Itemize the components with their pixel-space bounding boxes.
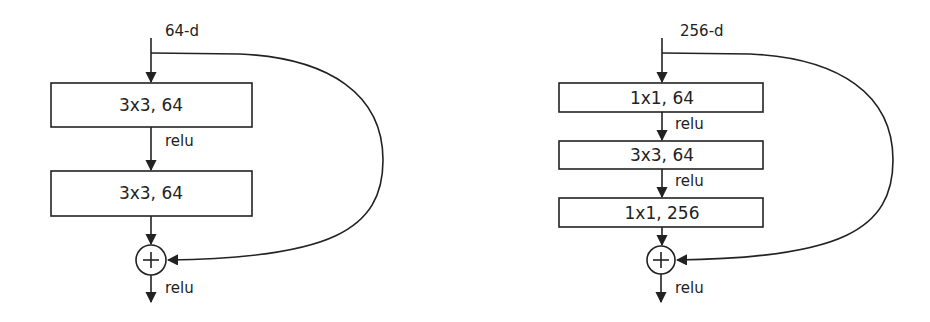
- left-layer-1-label: 3x3, 64: [119, 95, 183, 115]
- right-input-dim-label: 256-d: [680, 22, 724, 40]
- left-layer-2: 3x3, 64: [51, 171, 252, 216]
- left-output-relu-label: relu: [165, 279, 194, 297]
- right-relu-2-label: relu: [675, 172, 704, 190]
- right-layer-2: 3x3, 64: [559, 141, 763, 169]
- left-layer-2-label: 3x3, 64: [119, 183, 183, 203]
- left-add-node: [136, 245, 166, 275]
- right-layer-3: 1x1, 256: [559, 198, 763, 227]
- left-layer-1: 3x3, 64: [51, 83, 252, 127]
- right-relu-1-label: relu: [675, 115, 704, 133]
- right-output-relu-label: relu: [675, 279, 704, 297]
- right-layer-1-label: 1x1, 64: [630, 88, 694, 108]
- right-add-node: [647, 246, 675, 274]
- resnet-blocks-diagram: 64-d 3x3, 64 relu 3x3, 64 relu 256-d: [0, 0, 930, 322]
- right-layer-3-label: 1x1, 256: [625, 203, 700, 223]
- left-input-dim-label: 64-d: [165, 22, 199, 40]
- right-bottleneck-block: 256-d 1x1, 64 relu 3x3, 64 relu 1x1, 256: [559, 22, 893, 302]
- left-residual-block: 64-d 3x3, 64 relu 3x3, 64 relu: [51, 22, 383, 302]
- right-layer-2-label: 3x3, 64: [630, 145, 694, 165]
- left-relu-1-label: relu: [165, 132, 194, 150]
- right-layer-1: 1x1, 64: [559, 83, 763, 112]
